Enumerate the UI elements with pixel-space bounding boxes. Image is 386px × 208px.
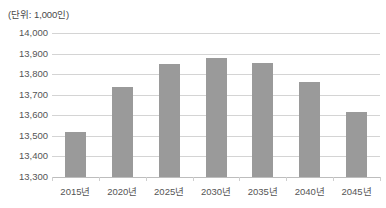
y-axis-tick-label: 13,500 [4, 130, 48, 141]
y-axis-tick-label: 13,800 [4, 68, 48, 79]
bar [299, 82, 320, 177]
y-axis-tick-label: 13,300 [4, 171, 48, 182]
bar [252, 63, 273, 177]
y-axis-tick-label: 13,400 [4, 150, 48, 161]
x-axis-tick-label: 2035년 [240, 184, 286, 198]
bar [346, 112, 367, 177]
y-axis-tick-label: 14,000 [4, 27, 48, 38]
plot-area [52, 33, 380, 177]
x-axis-tick [146, 177, 147, 181]
x-axis-tick-label: 2045년 [334, 184, 380, 198]
bars-layer [52, 33, 380, 177]
bar [112, 87, 133, 177]
x-axis-tick [286, 177, 287, 181]
unit-note-label: (단위: 1,000인) [8, 7, 69, 21]
x-axis-tick-label: 2015년 [52, 184, 98, 198]
y-axis-tick-label: 13,700 [4, 89, 48, 100]
bar [206, 58, 227, 177]
bar [159, 64, 180, 177]
x-axis-tick [380, 177, 381, 181]
x-axis-tick [239, 177, 240, 181]
x-axis-tick [52, 177, 53, 181]
x-axis-tick [99, 177, 100, 181]
x-axis-tick [333, 177, 334, 181]
x-axis-tick-label: 2030년 [193, 184, 239, 198]
x-axis-tick-label: 2025년 [146, 184, 192, 198]
bar-chart-figure: (단위: 1,000인) 14,00013,90013,80013,70013,… [0, 0, 386, 208]
y-axis-tick-label: 13,900 [4, 48, 48, 59]
x-axis-tick [193, 177, 194, 181]
x-axis-line [52, 177, 380, 178]
bar [65, 132, 86, 177]
x-axis-tick-label: 2020년 [99, 184, 145, 198]
y-axis-tick-label: 13,600 [4, 109, 48, 120]
x-axis-tick-label: 2040년 [287, 184, 333, 198]
